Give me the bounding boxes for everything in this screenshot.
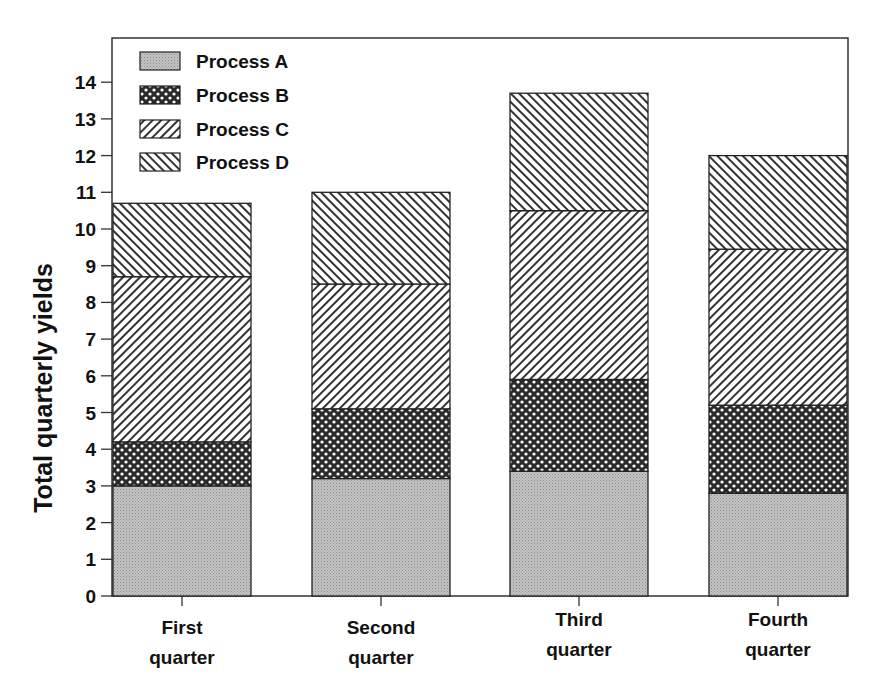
bar-segment-process-b (312, 409, 450, 479)
bar-segment-process-b (709, 405, 847, 493)
y-tick-label: 5 (85, 403, 96, 424)
legend-label: Process B (196, 85, 289, 106)
bar-segment-process-c (510, 211, 648, 380)
x-tick-label: Second (347, 617, 416, 638)
y-tick-label: 12 (75, 146, 96, 167)
bar-segment-process-d (709, 156, 847, 250)
bar-segment-process-b (113, 442, 251, 486)
legend-label: Process D (196, 152, 289, 173)
bar-stack (113, 203, 251, 596)
x-tick-label: Third (555, 609, 603, 630)
y-tick-label: 7 (85, 329, 96, 350)
y-tick-label: 14 (75, 72, 97, 93)
bar-segment-process-c (113, 277, 251, 442)
bar-segment-process-a (312, 479, 450, 596)
y-axis-title: Total quarterly yields (29, 263, 57, 513)
x-tick-label: quarter (348, 647, 414, 668)
y-tick-label: 2 (85, 513, 96, 534)
bar-stack (709, 156, 847, 596)
legend-label: Process C (196, 119, 289, 140)
x-axis: FirstquarterSecondquarterThirdquarterFou… (149, 596, 811, 668)
legend-swatch (140, 86, 180, 104)
legend-item: Process D (140, 152, 289, 173)
bar-stack (312, 192, 450, 596)
y-tick-label: 13 (75, 109, 96, 130)
legend: Process AProcess BProcess CProcess D (140, 51, 289, 173)
y-tick-label: 3 (85, 476, 96, 497)
bar-stack (510, 93, 648, 596)
y-tick-label: 0 (85, 586, 96, 607)
y-tick-label: 4 (85, 439, 96, 460)
bar-segment-process-c (709, 249, 847, 405)
bar-segment-process-d (113, 203, 251, 276)
y-tick-label: 10 (75, 219, 96, 240)
x-tick-label: Fourth (748, 609, 808, 630)
legend-swatch (140, 153, 180, 171)
legend-item: Process A (140, 51, 289, 72)
y-tick-label: 11 (76, 182, 97, 203)
y-tick-label: 8 (85, 292, 96, 313)
legend-label: Process A (196, 51, 289, 72)
y-tick-label: 1 (85, 549, 96, 570)
y-axis: 01234567891011121314 (75, 72, 112, 607)
bar-segment-process-c (312, 284, 450, 409)
chart-canvas: 01234567891011121314 FirstquarterSecondq… (0, 0, 877, 694)
bar-segment-process-a (113, 486, 251, 596)
bar-segment-process-a (510, 471, 648, 596)
bar-segment-process-d (312, 192, 450, 284)
x-tick-label: quarter (149, 647, 215, 668)
x-tick-label: quarter (546, 639, 612, 660)
x-tick-label: First (161, 617, 203, 638)
stacked-bar-chart: 01234567891011121314 FirstquarterSecondq… (0, 0, 877, 694)
legend-swatch (140, 120, 180, 138)
y-tick-label: 9 (85, 256, 96, 277)
bar-segment-process-a (709, 493, 847, 596)
legend-item: Process B (140, 85, 289, 106)
legend-swatch (140, 52, 180, 70)
bar-segment-process-d (510, 93, 648, 210)
legend-item: Process C (140, 119, 289, 140)
bar-segment-process-b (510, 379, 648, 471)
y-tick-label: 6 (85, 366, 96, 387)
x-tick-label: quarter (745, 639, 811, 660)
